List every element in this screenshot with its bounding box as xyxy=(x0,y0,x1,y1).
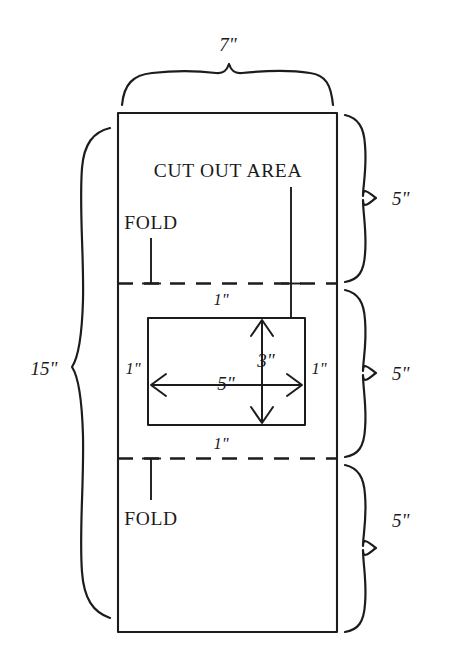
cut-out-area-diagram: CUT OUT AREA FOLD FOLD 7" 15" 5" 5" 5" 5… xyxy=(0,0,449,667)
brace-right-section-middle xyxy=(345,290,376,457)
overall-width-label: 7" xyxy=(219,34,238,55)
margin-bottom-label: 1" xyxy=(213,434,228,453)
cutout-height-label: 3" xyxy=(256,350,276,371)
fold-label-top: FOLD xyxy=(124,212,178,233)
cut-out-area-label: CUT OUT AREA xyxy=(154,160,303,181)
brace-top-width xyxy=(122,64,333,105)
diagram-canvas: CUT OUT AREA FOLD FOLD 7" 15" 5" 5" 5" 5… xyxy=(0,0,449,667)
brace-right-section-top xyxy=(345,115,376,282)
cutout-width-label: 5" xyxy=(217,373,236,394)
cutout-outline xyxy=(148,318,305,425)
section-bottom-label: 5" xyxy=(392,510,411,531)
section-top-label: 5" xyxy=(392,188,411,209)
margin-top-label: 1" xyxy=(213,290,228,309)
section-middle-label: 5" xyxy=(392,363,411,384)
fold-label-bottom: FOLD xyxy=(124,508,178,529)
brace-right-section-bottom xyxy=(345,465,376,632)
overall-height-label: 15" xyxy=(31,358,59,379)
brace-left-height xyxy=(72,128,110,618)
margin-left-label: 1" xyxy=(125,359,140,378)
margin-right-label: 1" xyxy=(311,359,326,378)
